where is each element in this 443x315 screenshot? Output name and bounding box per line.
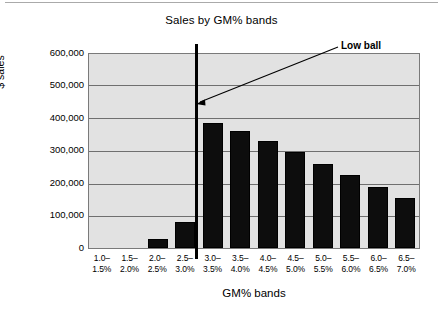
- plot-area: [88, 53, 420, 249]
- x-tick-label: 5.0–5.5%: [309, 253, 337, 283]
- x-tick-label: 6.0–6.5%: [365, 253, 393, 283]
- x-tick-label: 1.5–2.0%: [116, 253, 144, 283]
- x-tick-label: 6.5–7.0%: [392, 253, 420, 283]
- x-axis-ticks: 1.0–1.5%1.5–2.0%2.0–2.5%2.5–3.0%3.0–3.5%…: [88, 253, 420, 283]
- x-tick-label: 2.5–3.0%: [171, 253, 199, 283]
- bar: [203, 123, 223, 248]
- bar: [368, 187, 388, 248]
- bar-slot: [89, 54, 117, 248]
- bar-slot: [117, 54, 145, 248]
- bar-slot: [282, 54, 310, 248]
- bar: [258, 141, 278, 248]
- bar-slot: [144, 54, 172, 248]
- bar-slot: [337, 54, 365, 248]
- bar-slot: [309, 54, 337, 248]
- low-ball-annotation-label: Low ball: [341, 40, 381, 51]
- y-axis-ticks: 600,000 500,000 400,000 300,000 200,000 …: [0, 0, 84, 315]
- y-tick-label: 300,000: [4, 145, 84, 154]
- x-tick-label: 4.0–4.5%: [254, 253, 282, 283]
- x-tick-label: 1.0–1.5%: [88, 253, 116, 283]
- x-tick-label: 4.5–5.0%: [282, 253, 310, 283]
- x-tick-label: 3.0–3.5%: [199, 253, 227, 283]
- chart-page: Sales by GM% bands $ sales 600,000 500,0…: [0, 0, 443, 315]
- bar-slot: [199, 54, 227, 248]
- x-tick-label: 2.0–2.5%: [143, 253, 171, 283]
- y-tick-label: 600,000: [4, 48, 84, 57]
- bar: [340, 175, 360, 248]
- bar: [285, 152, 305, 248]
- bar: [230, 131, 250, 248]
- bar-slot: [364, 54, 392, 248]
- y-tick-label: 400,000: [4, 113, 84, 122]
- y-tick-label: 100,000: [4, 210, 84, 219]
- y-tick-label: 0: [4, 243, 84, 252]
- bar: [175, 222, 195, 248]
- x-axis-title: GM% bands: [88, 287, 420, 299]
- bar-slot: [254, 54, 282, 248]
- vertical-divider-marker: [195, 44, 198, 259]
- bar-slot: [392, 54, 420, 248]
- y-tick-label: 500,000: [4, 80, 84, 89]
- bar: [395, 198, 415, 248]
- bar: [313, 164, 333, 248]
- x-tick-label: 3.5–4.0%: [226, 253, 254, 283]
- x-tick-label: 5.5–6.0%: [337, 253, 365, 283]
- y-tick-label: 200,000: [4, 178, 84, 187]
- bar-series: [89, 54, 419, 248]
- bar-slot: [227, 54, 255, 248]
- bar: [148, 239, 168, 248]
